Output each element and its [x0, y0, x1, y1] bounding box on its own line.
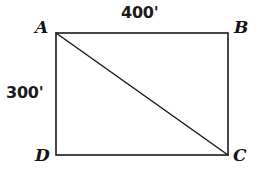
vertex-label-d: D: [35, 147, 50, 164]
vertex-label-b: B: [234, 19, 248, 36]
geometry-diagram: A B C D 400' 300': [0, 0, 261, 179]
vertex-label-c: C: [233, 147, 247, 164]
dimension-label-top: 400': [121, 5, 159, 21]
vertex-label-a: A: [35, 19, 48, 36]
dimension-label-left: 300': [6, 85, 44, 101]
diagonal-line-ac: [56, 33, 228, 155]
